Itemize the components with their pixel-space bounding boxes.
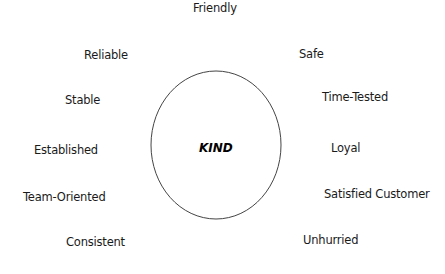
attribute-time-tested: Time-Tested [322,90,388,104]
attribute-safe: Safe [299,47,324,61]
attribute-team-oriented: Team-Oriented [23,190,106,204]
attribute-loyal: Loyal [331,141,360,155]
attribute-reliable: Reliable [84,48,128,62]
attribute-friendly: Friendly [193,1,237,15]
attribute-satisfied-customer: Satisfied Customer [324,187,430,201]
center-ellipse [0,0,445,274]
attribute-unhurried: Unhurried [303,233,358,247]
attribute-established: Established [34,143,98,157]
attribute-stable: Stable [65,93,100,107]
attribute-consistent: Consistent [66,235,125,249]
center-label: KIND [199,141,233,155]
